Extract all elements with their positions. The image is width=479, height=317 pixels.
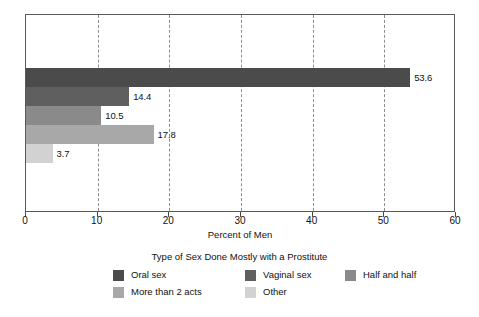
legend-item-oral-sex[interactable]: Oral sex: [113, 268, 166, 282]
legend-title: Type of Sex Done Mostly with a Prostitut…: [0, 251, 479, 262]
legend-items: Oral sexVaginal sexHalf and halfMore tha…: [0, 268, 479, 300]
legend-item-half-and-half[interactable]: Half and half: [345, 268, 416, 282]
legend-item-more-than-2-acts[interactable]: More than 2 acts: [113, 285, 202, 299]
x-tick-label-50: 50: [378, 214, 389, 228]
bar-value-label: 17.8: [158, 130, 176, 140]
bar-row: 14.4: [26, 87, 151, 106]
legend-item-label: Vaginal sex: [263, 270, 311, 280]
legend-swatch-icon: [345, 270, 356, 281]
bar-oral-sex: [26, 68, 410, 87]
bar-value-label: 53.6: [414, 73, 432, 83]
legend-item-other[interactable]: Other: [245, 285, 287, 299]
bar-chart-figure: 53.614.410.517.83.7 0102030405060 Percen…: [0, 0, 479, 317]
x-tick-label-20: 20: [163, 214, 174, 228]
bar-vaginal-sex: [26, 87, 129, 106]
x-tick-label-10: 10: [91, 214, 102, 228]
x-tick-label-0: 0: [22, 214, 28, 228]
bars-layer: 53.614.410.517.83.7: [26, 15, 454, 211]
bar-row: 53.6: [26, 68, 432, 87]
legend-swatch-icon: [245, 270, 256, 281]
bar-value-label: 3.7: [57, 149, 70, 159]
plot-area: 53.614.410.517.83.7: [25, 14, 455, 212]
bar-half-and-half: [26, 106, 101, 125]
x-tick-label-60: 60: [449, 214, 460, 228]
x-tick-label-30: 30: [234, 214, 245, 228]
x-tick-label-40: 40: [306, 214, 317, 228]
legend-item-label: More than 2 acts: [131, 287, 202, 297]
legend-item-label: Half and half: [363, 270, 416, 280]
bar-other: [26, 144, 53, 163]
bar-row: 3.7: [26, 144, 69, 163]
x-axis-title: Percent of Men: [25, 229, 455, 240]
bar-row: 10.5: [26, 106, 123, 125]
legend-item-label: Oral sex: [131, 270, 166, 280]
legend-item-label: Other: [263, 287, 287, 297]
legend-item-vaginal-sex[interactable]: Vaginal sex: [245, 268, 311, 282]
bar-row: 17.8: [26, 125, 176, 144]
legend: Type of Sex Done Mostly with a Prostitut…: [0, 251, 479, 300]
x-axis-tick-labels: 0102030405060: [25, 214, 455, 228]
bar-value-label: 14.4: [133, 92, 151, 102]
bar-value-label: 10.5: [105, 111, 123, 121]
bar-more-than-2-acts: [26, 125, 154, 144]
legend-swatch-icon: [113, 287, 124, 298]
legend-swatch-icon: [245, 287, 256, 298]
legend-swatch-icon: [113, 270, 124, 281]
